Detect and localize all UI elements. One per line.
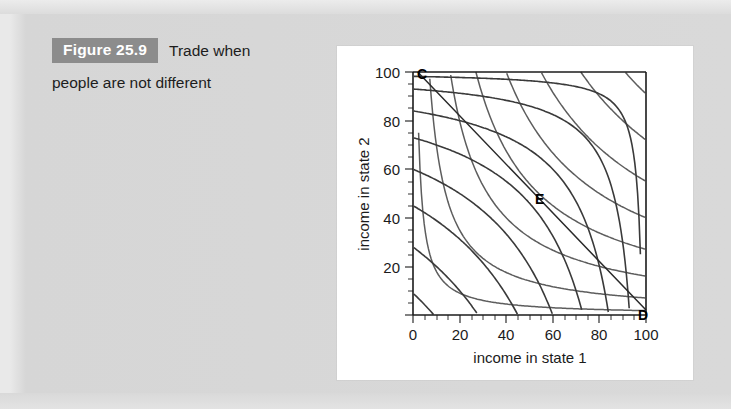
x-tick-label-0: 0 (409, 326, 417, 343)
indifference-curve-p1-4 (507, 73, 645, 217)
indifference-curves-person-2 (414, 76, 641, 314)
indifference-curve-p1-6 (581, 72, 645, 139)
x-tick-label-40: 40 (498, 326, 515, 343)
indifference-curve-p1-7 (626, 73, 646, 94)
point-label-c: C (417, 66, 427, 82)
indifference-curve-p1-0 (419, 133, 645, 311)
figure-panel: 100 80 60 40 20 0 20 40 60 80 100 income… (337, 46, 693, 380)
edgeworth-box-chart: 100 80 60 40 20 0 20 40 60 80 100 income… (337, 46, 693, 380)
y-tick-label-80: 80 (383, 113, 400, 130)
contract-curve-path (418, 72, 646, 310)
figure-title-line-1: Trade when (169, 43, 250, 59)
x-tick-label-20: 20 (452, 326, 469, 343)
x-tick-label-80: 80 (591, 326, 608, 343)
axes (405, 72, 646, 323)
x-tick-label-60: 60 (545, 326, 562, 343)
point-label-d: D (638, 307, 648, 323)
figure-title-line-2: people are not different (52, 74, 317, 92)
y-tick-label-20: 20 (383, 259, 400, 276)
y-tick-labels: 100 80 60 40 20 (375, 64, 400, 276)
x-tick-label-100: 100 (633, 326, 658, 343)
y-tick-label-40: 40 (383, 210, 400, 227)
y-tick-label-100: 100 (375, 64, 400, 81)
y-tick-label-60: 60 (383, 161, 400, 178)
contract-line (418, 72, 646, 310)
x-tick-labels: 0 20 40 60 80 100 (409, 326, 659, 343)
figure-number-badge: Figure 25.9 (52, 38, 158, 63)
x-axis-title: income in state 1 (473, 349, 586, 366)
y-axis-title: income in state 2 (355, 137, 372, 250)
indifference-curve-p2-7 (414, 294, 434, 315)
point-label-e: E (535, 191, 544, 207)
figure-caption: Figure 25.9Trade when people are not dif… (52, 38, 317, 91)
